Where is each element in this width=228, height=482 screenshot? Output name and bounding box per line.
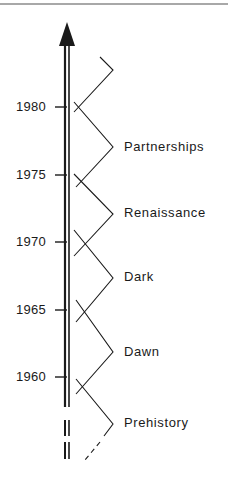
year-label-1965: 1965 [16,303,46,317]
era-label-dawn: Dawn [124,345,160,359]
bracket-dawn [76,300,113,394]
year-label-1970: 1970 [16,235,46,249]
era-label-dark: Dark [124,270,154,284]
era-label-partnerships: Partnerships [124,140,204,154]
bracket-dark [74,230,113,322]
era-label-renaissance: Renaissance [124,206,206,220]
bracket-prehistory-dashed [85,442,100,460]
bracket-partnerships [74,102,113,187]
bracket-top [74,57,113,112]
timeline-diagram: 1980 1975 1970 1965 1960 Partnerships Re… [0,0,228,482]
bracket-renaissance [74,174,113,256]
year-label-1980: 1980 [16,100,46,114]
era-label-prehistory: Prehistory [124,416,189,430]
arrow-up-icon [59,22,75,46]
year-label-1975: 1975 [16,168,46,182]
year-label-1960: 1960 [16,370,46,384]
